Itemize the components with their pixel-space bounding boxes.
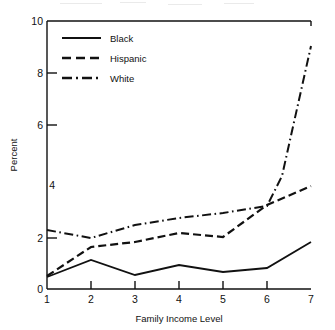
y-tick-label: 10 <box>31 15 43 27</box>
y-tick-label: 2 <box>37 232 43 244</box>
scan-noise-line <box>120 2 146 3</box>
legend-label-hispanic: Hispanic <box>110 53 147 64</box>
series-line-black <box>47 242 311 277</box>
x-axis-title: Family Income Level <box>135 313 222 324</box>
y-axis-tick-labels: 10 8 6 4 2 0 <box>31 15 55 295</box>
x-axis-tick-labels: 1 2 3 4 5 6 7 <box>44 293 314 305</box>
y-tick-label: 6 <box>37 119 43 131</box>
scan-noise-line <box>224 3 254 4</box>
y-axis-ticks <box>47 73 57 238</box>
x-tick-label: 4 <box>176 293 182 305</box>
y-axis-title: Percent <box>8 138 19 171</box>
legend: Black Hispanic White <box>62 33 147 84</box>
x-axis-ticks <box>91 281 267 289</box>
line-chart: 10 8 6 4 2 0 1 2 3 4 5 6 7 Family Income… <box>0 0 335 330</box>
x-tick-label: 5 <box>220 293 226 305</box>
legend-item-black: Black <box>62 33 133 44</box>
series-lines <box>47 46 311 277</box>
x-tick-label: 2 <box>88 293 94 305</box>
y-tick-label: 8 <box>37 67 43 79</box>
x-tick-label: 6 <box>264 293 270 305</box>
chart-figure: 10 8 6 4 2 0 1 2 3 4 5 6 7 Family Income… <box>0 0 335 330</box>
x-tick-label: 7 <box>308 293 314 305</box>
legend-label-black: Black <box>110 33 133 44</box>
legend-item-white: White <box>62 73 134 84</box>
legend-label-white: White <box>110 73 134 84</box>
legend-item-hispanic: Hispanic <box>62 53 147 64</box>
scan-noise-line <box>60 3 102 4</box>
series-line-white <box>47 46 311 238</box>
x-tick-label: 3 <box>132 293 138 305</box>
y-tick-label: 0 <box>37 283 43 295</box>
scan-noise-line <box>168 4 202 5</box>
y-tick-label: 4 <box>49 179 55 191</box>
x-tick-label: 1 <box>44 293 50 305</box>
